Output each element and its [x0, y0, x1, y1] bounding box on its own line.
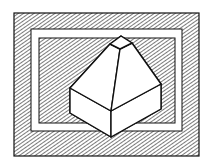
figure-canvas	[0, 0, 206, 163]
